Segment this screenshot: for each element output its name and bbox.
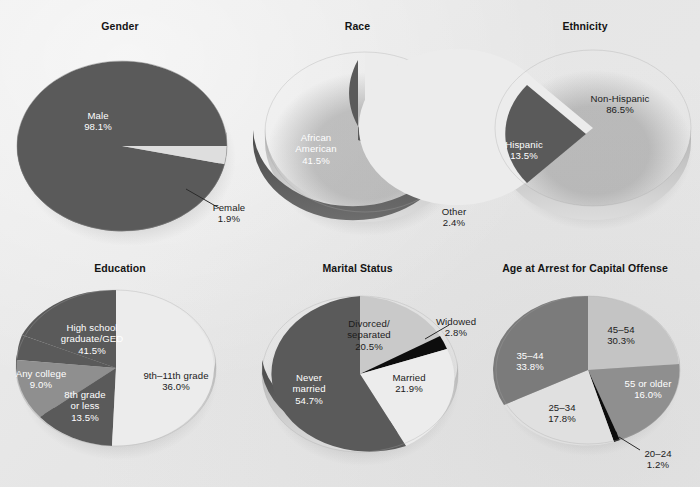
- pie-label-marital-never-married: Never married 54.7%: [272, 372, 346, 406]
- pie-label-ethnicity-hispanic: Hispanic 13.5%: [490, 139, 558, 162]
- slice-pct: 36.0%: [162, 381, 190, 392]
- slice-pct: 13.5%: [71, 412, 99, 423]
- slice-name-line1: Divorced/: [348, 318, 389, 329]
- slice-name-line1: Never: [296, 372, 322, 383]
- slice-name-line1: High school: [66, 322, 117, 333]
- slice-name-line2: American: [295, 143, 336, 154]
- chart-title-marital-status: Marital Status: [240, 262, 475, 274]
- chart-title-ethnicity: Ethnicity: [470, 20, 700, 32]
- pie-label-race-african-american: African American 41.5%: [278, 132, 354, 166]
- pie-age-svg: [470, 278, 700, 473]
- pie-label-age-20-24: 20–24 1.2%: [628, 448, 688, 471]
- slice-pct: 9.0%: [30, 379, 52, 390]
- slice-name: Hispanic: [505, 139, 543, 150]
- pie-ethnicity: [470, 34, 700, 234]
- slice-name-line1: African: [301, 132, 332, 143]
- pie-age-at-arrest: [470, 278, 700, 473]
- slice-name-line2: graduate/GED: [61, 333, 124, 344]
- chart-title-gender: Gender: [0, 20, 240, 32]
- slice-pct: 2.4%: [443, 217, 465, 228]
- slice-name: Married: [392, 372, 425, 383]
- pie-label-age-45-54: 45–54 30.3%: [590, 324, 652, 347]
- chart-panel-marital-status: Marital Status Divorced/ separated: [240, 262, 475, 487]
- pie-label-age-25-34: 25–34 17.8%: [530, 402, 594, 425]
- pie-label-gender-male: Male 98.1%: [58, 110, 138, 133]
- chart-title-education: Education: [0, 262, 240, 274]
- pie-chart-grid: Gender: [0, 0, 700, 487]
- pie-label-marital-divorced-separated: Divorced/ separated 20.5%: [326, 318, 412, 352]
- pie-label-marital-married: Married 21.9%: [374, 372, 444, 395]
- slice-name: Non-Hispanic: [591, 93, 650, 104]
- slice-name: 35–44: [516, 350, 543, 361]
- pie-label-age-35-44: 35–44 33.8%: [498, 350, 562, 373]
- slice-pct: 1.9%: [218, 213, 240, 224]
- chart-panel-age-at-arrest: Age at Arrest for Capital Offense: [470, 262, 700, 487]
- pie-label-education-any-college: Any college 9.0%: [3, 368, 79, 391]
- pie-label-education-8th-or-less: 8th grade or less 13.5%: [50, 389, 120, 423]
- slice-pct: 21.9%: [395, 383, 423, 394]
- slice-name-line2: separated: [347, 329, 391, 340]
- slice-name: Other: [442, 206, 467, 217]
- slice-pct: 41.5%: [302, 155, 330, 166]
- slice-name-line2: or less: [71, 400, 100, 411]
- slice-pct: 1.2%: [647, 459, 669, 470]
- slice-pct: 20.5%: [355, 341, 383, 352]
- slice-pct: 54.7%: [295, 395, 323, 406]
- slice-pct: 30.3%: [607, 335, 635, 346]
- slice-pct: 17.8%: [548, 413, 576, 424]
- slice-pct: 98.1%: [84, 121, 112, 132]
- slice-name-line2: married: [292, 383, 325, 394]
- slice-pct: 16.0%: [634, 389, 662, 400]
- slice-pct: 41.5%: [78, 345, 106, 356]
- chart-title-age-at-arrest: Age at Arrest for Capital Offense: [470, 262, 700, 274]
- slice-pct: 2.8%: [445, 327, 467, 338]
- slice-name: 9th–11th grade: [143, 370, 208, 381]
- slice-name: Any college: [16, 368, 67, 379]
- chart-panel-gender: Gender: [0, 20, 240, 250]
- slice-name: 25–34: [548, 402, 575, 413]
- chart-panel-education: Education High school: [0, 262, 240, 487]
- pie-label-age-55-or-older: 55 or older 16.0%: [606, 378, 690, 401]
- pie-ethnicity-svg: [470, 34, 700, 234]
- slice-pct: 33.8%: [516, 361, 544, 372]
- slice-name: 45–54: [607, 324, 634, 335]
- slice-name: 20–24: [644, 448, 671, 459]
- slice-pct: 13.5%: [510, 150, 538, 161]
- slice-name: Male: [87, 110, 108, 121]
- chart-panel-ethnicity: Ethnicity Non-Hispanic 86.5% Hispanic 13…: [470, 20, 700, 250]
- pie-label-education-hs-grad: High school graduate/GED 41.5%: [40, 322, 144, 356]
- pie-label-education-9th-11th: 9th–11th grade 36.0%: [126, 370, 226, 393]
- chart-title-race: Race: [240, 20, 475, 32]
- pie-label-ethnicity-non-hispanic: Non-Hispanic 86.5%: [573, 93, 667, 116]
- slice-pct: 86.5%: [606, 104, 634, 115]
- slice-name: 55 or older: [625, 378, 672, 389]
